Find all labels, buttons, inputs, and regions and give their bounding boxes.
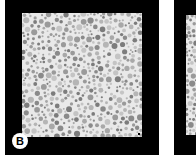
- dot-pattern-graphic: [22, 13, 142, 137]
- panel-label: B: [12, 133, 28, 149]
- figure-panel-adjacent: [174, 0, 196, 155]
- dot-pattern-plate-adjacent: [186, 15, 196, 135]
- figure-panel-b: B: [5, 0, 159, 155]
- dot-pattern-graphic-adjacent: [186, 15, 196, 135]
- dot-pattern-plate: [22, 13, 142, 137]
- corner-marker: [138, 133, 140, 135]
